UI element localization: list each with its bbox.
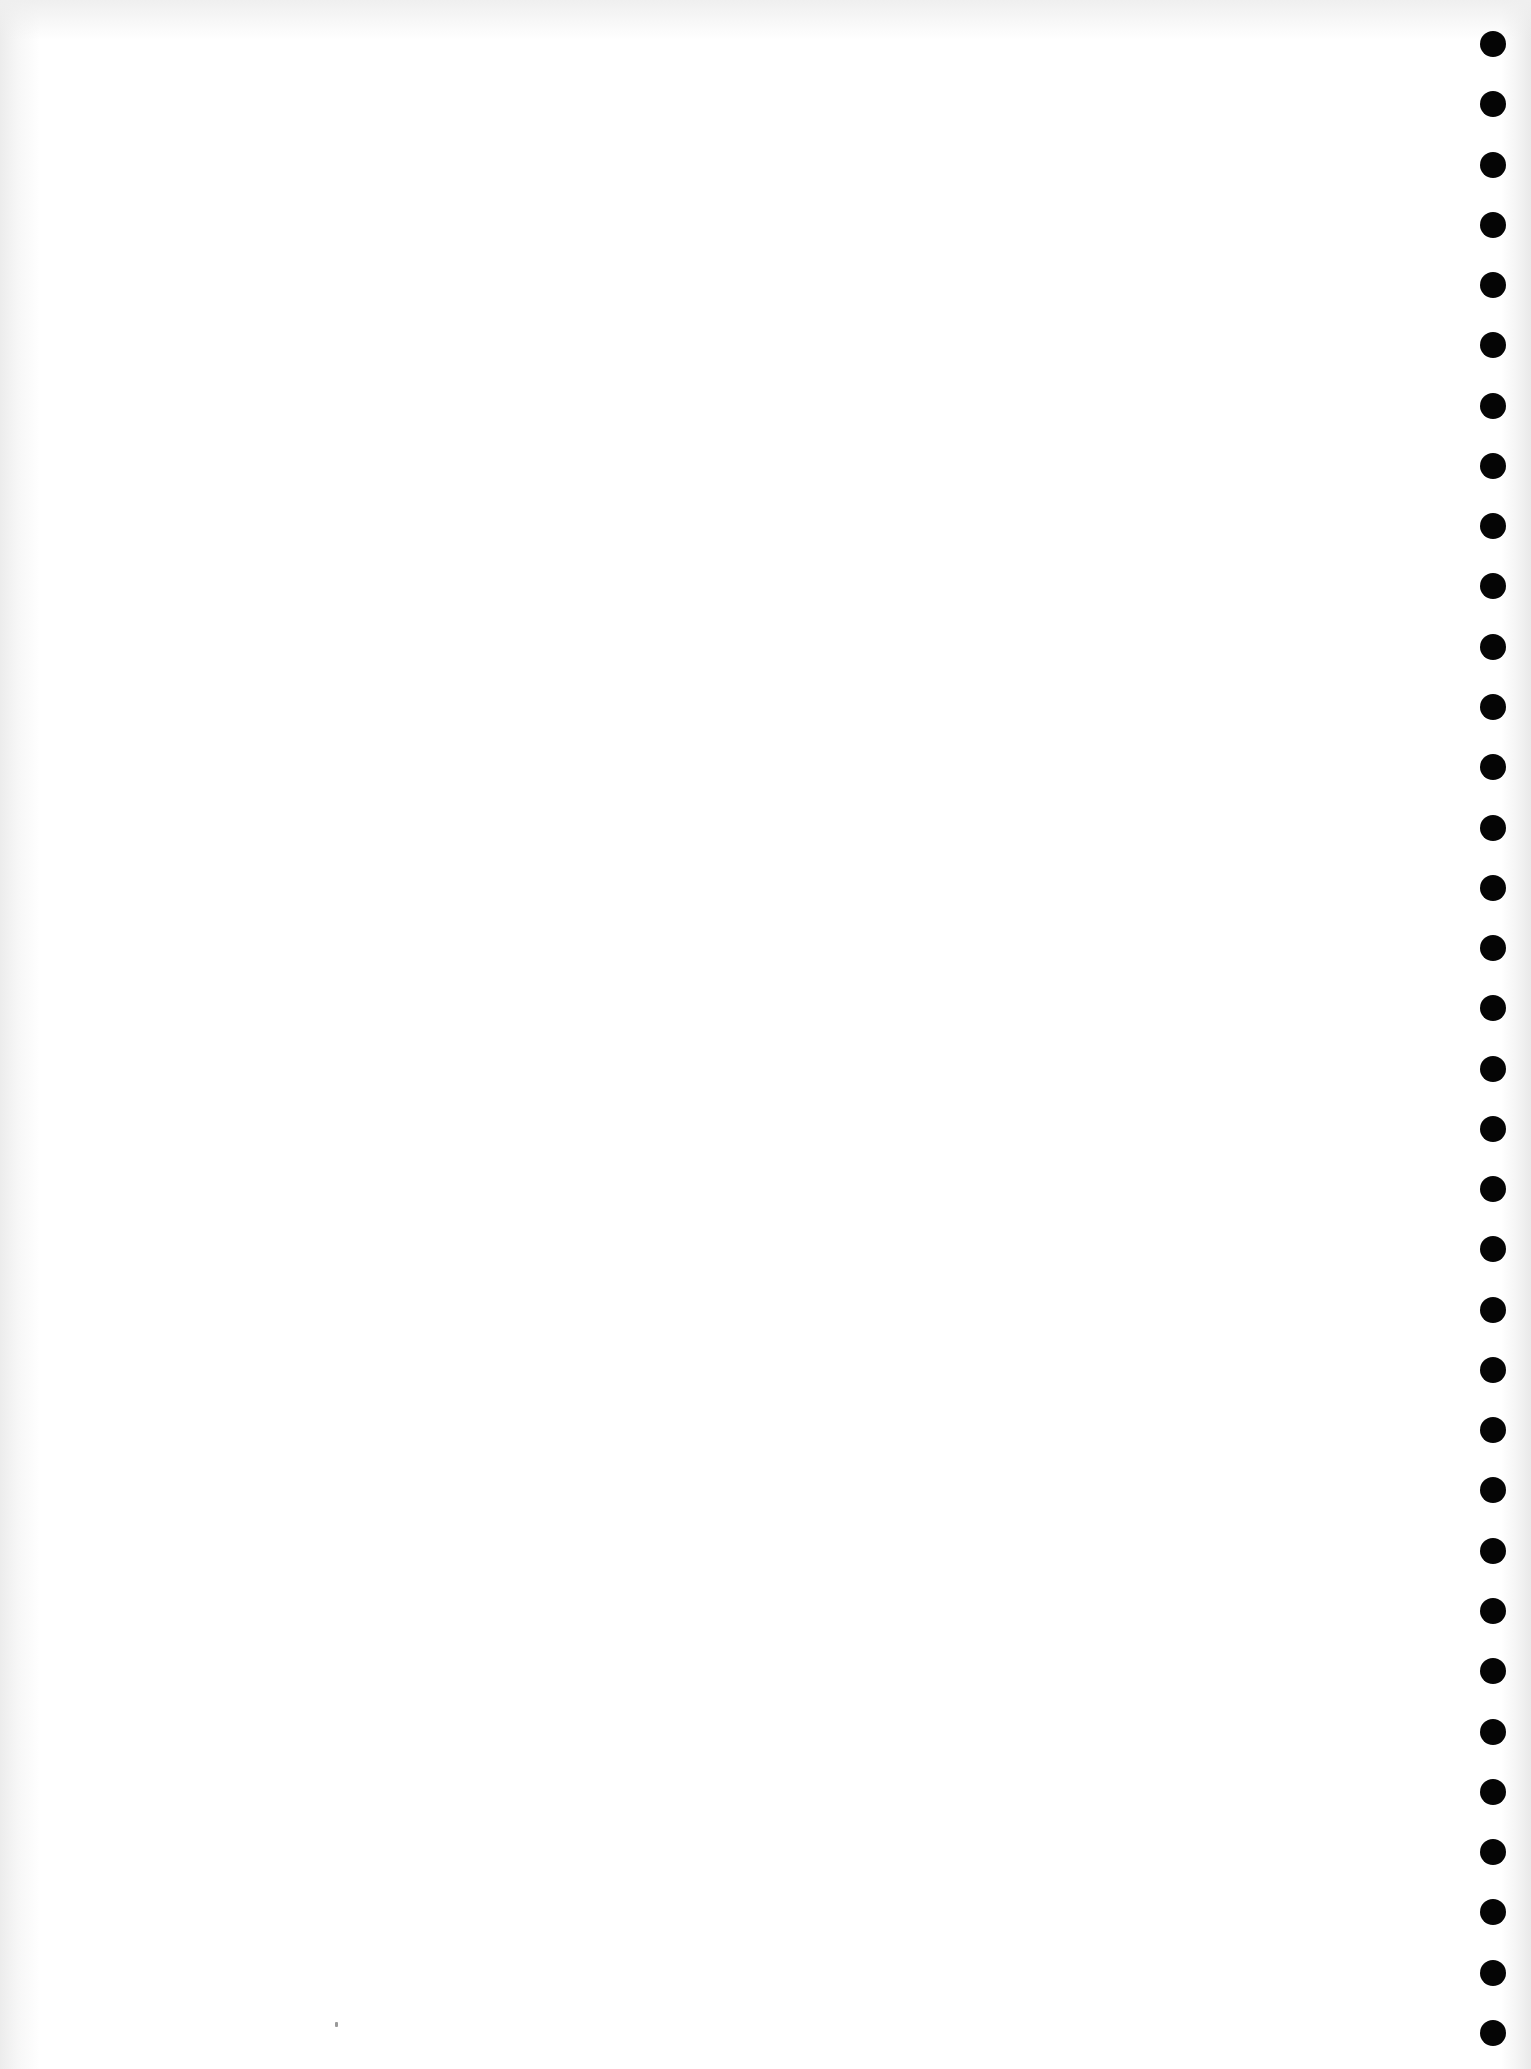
punch-hole-icon	[1480, 1417, 1506, 1443]
punch-hole-icon	[1480, 393, 1506, 419]
punch-hole-icon	[1480, 815, 1506, 841]
punch-hole-icon	[1480, 573, 1506, 599]
punch-hole-icon	[1480, 1779, 1506, 1805]
punch-hole-icon	[1480, 995, 1506, 1021]
punch-hole-icon	[1480, 1056, 1506, 1082]
punch-hole-icon	[1480, 332, 1506, 358]
punch-hole-icon	[1480, 272, 1506, 298]
punch-hole-icon	[1480, 212, 1506, 238]
punch-hole-icon	[1480, 875, 1506, 901]
punch-hole-icon	[1480, 1719, 1506, 1745]
punch-hole-icon	[1480, 935, 1506, 961]
punch-hole-icon	[1480, 1236, 1506, 1262]
punch-hole-icon	[1480, 513, 1506, 539]
punch-hole-icon	[1480, 1176, 1506, 1202]
punch-hole-icon	[1480, 1839, 1506, 1865]
punch-hole-icon	[1480, 694, 1506, 720]
punch-hole-icon	[1480, 754, 1506, 780]
punch-hole-icon	[1480, 2020, 1506, 2046]
punch-hole-icon	[1480, 1357, 1506, 1383]
blank-page	[0, 0, 1531, 2069]
punch-hole-icon	[1480, 152, 1506, 178]
punch-hole-icon	[1480, 1658, 1506, 1684]
punch-hole-icon	[1480, 91, 1506, 117]
punch-hole-icon	[1480, 31, 1506, 57]
punch-hole-column	[0, 0, 1531, 2069]
punch-hole-icon	[1480, 1899, 1506, 1925]
punch-hole-icon	[1480, 1297, 1506, 1323]
punch-hole-icon	[1480, 453, 1506, 479]
punch-hole-icon	[1480, 634, 1506, 660]
punch-hole-icon	[1480, 1960, 1506, 1986]
scan-speck	[335, 2022, 338, 2027]
punch-hole-icon	[1480, 1477, 1506, 1503]
punch-hole-icon	[1480, 1538, 1506, 1564]
punch-hole-icon	[1480, 1116, 1506, 1142]
punch-hole-icon	[1480, 1598, 1506, 1624]
